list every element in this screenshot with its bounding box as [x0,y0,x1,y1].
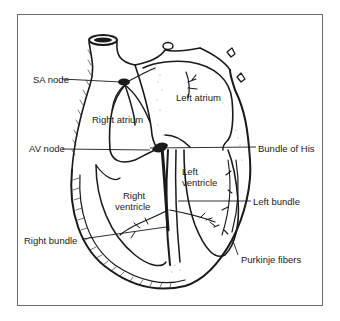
label-right-ventricle-line1: Right [123,190,145,201]
label-purkinje-fibers: Purkinje fibers [241,254,301,265]
atrial-septum [135,65,165,148]
wall-hatching [72,50,171,287]
label-left-ventricle-line1: Left [182,166,198,177]
label-right-atrium: Right atrium [92,114,143,125]
purkinje-network [214,160,232,235]
label-left-ventricle-line2: ventricle [182,177,217,188]
label-right-ventricle-line2: ventricle [115,201,150,212]
label-left-bundle: Left bundle [253,196,300,207]
label-bundle-of-his: Bundle of His [258,143,315,154]
label-av-node: AV node [29,143,65,154]
label-left-atrium: Left atrium [176,92,221,103]
label-right-bundle: Right bundle [24,235,77,246]
label-sa-node: SA node [33,74,69,85]
heart-illustration [0,0,340,321]
leader-lines [62,79,256,255]
